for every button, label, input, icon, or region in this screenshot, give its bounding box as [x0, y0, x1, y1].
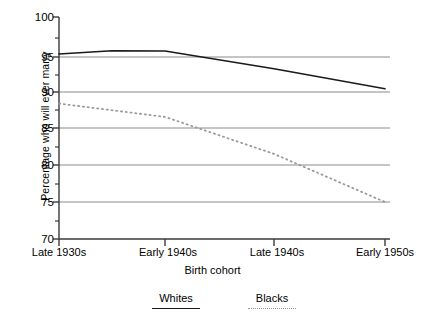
legend-item-blacks: Blacks	[248, 292, 296, 312]
x-tick-label-late-1930s: Late 1930s	[32, 246, 86, 258]
x-tick-label-late-1940s: Late 1940s	[250, 246, 304, 258]
x-tick-label-early-1950s: Early 1950s	[356, 246, 414, 258]
series-line-blacks	[59, 104, 385, 202]
legend-swatch-whites	[152, 308, 200, 312]
chart-legend: Whites Blacks	[0, 292, 425, 320]
legend-swatch-blacks	[248, 308, 296, 312]
x-tick-labels: Late 1930s Early 1940s Late 1940s Early …	[0, 246, 425, 262]
series-line-whites	[59, 51, 385, 89]
x-axis	[59, 239, 390, 246]
x-axis-title: Birth cohort	[0, 264, 425, 276]
legend-label-whites: Whites	[152, 292, 200, 305]
y-axis-title: Percentage who will ever marry	[39, 11, 51, 241]
legend-label-blacks: Blacks	[248, 292, 296, 305]
x-tick-label-early-1940s: Early 1940s	[139, 246, 197, 258]
chart-figure: 100 95 90 85 80 75 70 Percentage who wil…	[0, 0, 425, 324]
legend-item-whites: Whites	[152, 292, 200, 312]
gridlines	[59, 57, 390, 202]
